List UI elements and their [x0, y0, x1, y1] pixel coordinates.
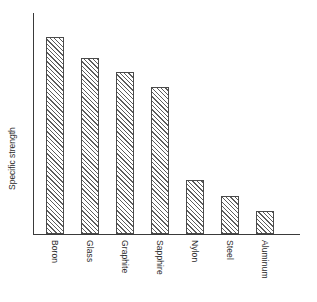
x-tick-label: Nylon [190, 240, 199, 262]
bar-boron [46, 37, 64, 234]
bar-chart: Specific strength BoronGlassGraphiteSapp… [0, 0, 317, 302]
bar-aluminum [256, 211, 274, 234]
x-tick-label: Boron [50, 240, 59, 263]
bar-nylon [186, 180, 204, 234]
bar-graphite [116, 72, 134, 234]
x-tick-label: Graphite [120, 240, 129, 273]
bar-sapphire [151, 87, 169, 234]
x-tick-label: Glass [85, 240, 94, 262]
x-tick-label: Steel [225, 240, 234, 260]
plot-area: BoronGlassGraphiteSapphireNylonSteelAlum… [0, 0, 317, 302]
bar-glass [81, 58, 99, 234]
bar-steel [221, 196, 239, 234]
x-tick-label: Sapphire [155, 240, 164, 275]
x-tick-label: Aluminum [260, 240, 269, 279]
